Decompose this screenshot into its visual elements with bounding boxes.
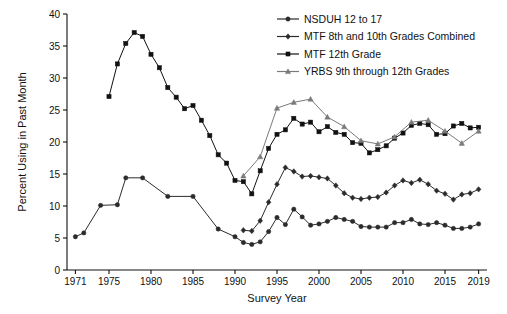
legend-item-0: NSDUH 12 to 17 bbox=[277, 13, 382, 25]
data-point-marker bbox=[384, 144, 388, 148]
data-point-marker bbox=[468, 190, 473, 195]
data-point-marker bbox=[141, 34, 145, 38]
data-point-marker bbox=[216, 227, 220, 231]
data-point-marker bbox=[292, 116, 296, 120]
data-point-marker bbox=[317, 174, 322, 179]
legend-label: MTF 12th Grade bbox=[304, 48, 381, 60]
series-triangle bbox=[241, 96, 482, 178]
x-tick-label: 1980 bbox=[140, 276, 163, 287]
data-point-marker bbox=[451, 197, 456, 202]
data-point-marker bbox=[283, 128, 287, 132]
data-point-marker bbox=[451, 226, 455, 230]
data-point-marker bbox=[140, 176, 144, 180]
data-point-marker bbox=[283, 165, 288, 170]
data-point-marker bbox=[308, 96, 313, 101]
data-point-marker bbox=[451, 124, 455, 128]
y-tick-label: 30 bbox=[49, 73, 61, 84]
data-point-marker bbox=[258, 240, 262, 244]
data-series bbox=[73, 30, 481, 246]
data-point-marker bbox=[392, 220, 396, 224]
data-point-marker bbox=[149, 52, 153, 56]
y-axis-title: Percent Using in Past Month bbox=[16, 72, 28, 211]
data-point-marker bbox=[417, 177, 422, 182]
data-point-marker bbox=[434, 188, 439, 193]
data-point-marker bbox=[317, 222, 321, 226]
data-point-marker bbox=[250, 242, 254, 246]
x-tick-label: 1995 bbox=[266, 276, 289, 287]
data-point-marker bbox=[124, 176, 128, 180]
data-point-marker bbox=[342, 217, 346, 221]
y-tick-label: 15 bbox=[49, 169, 61, 180]
y-tick-label: 10 bbox=[49, 201, 61, 212]
data-point-marker bbox=[266, 199, 271, 204]
data-point-marker bbox=[275, 182, 280, 187]
data-point-marker bbox=[308, 223, 312, 227]
data-point-marker bbox=[166, 194, 170, 198]
data-point-marker bbox=[359, 224, 363, 228]
data-point-marker bbox=[199, 118, 203, 122]
data-point-marker bbox=[191, 194, 195, 198]
data-point-marker bbox=[183, 107, 187, 111]
data-point-marker bbox=[342, 132, 346, 136]
data-point-marker bbox=[459, 192, 464, 197]
data-point-marker bbox=[334, 130, 338, 134]
data-point-marker bbox=[401, 131, 405, 135]
legend-item-2: MTF 12th Grade bbox=[277, 48, 381, 60]
legend-label: MTF 8th and 10th Grades Combined bbox=[304, 30, 475, 42]
y-tick-label: 0 bbox=[54, 265, 60, 276]
y-tick-label: 35 bbox=[49, 41, 61, 52]
x-axis-title: Survey Year bbox=[247, 292, 307, 304]
series-line bbox=[75, 178, 478, 245]
data-point-marker bbox=[476, 187, 481, 192]
data-point-marker bbox=[300, 174, 305, 179]
data-point-marker bbox=[426, 118, 431, 123]
data-point-marker bbox=[325, 125, 329, 129]
data-point-marker bbox=[367, 195, 372, 200]
data-point-marker bbox=[300, 215, 304, 219]
data-point-marker bbox=[434, 220, 438, 224]
data-point-marker bbox=[468, 126, 472, 130]
chart-legend: NSDUH 12 to 17MTF 8th and 10th Grades Co… bbox=[277, 13, 475, 78]
line-chart: 0510152025303540197119751980198519901995… bbox=[0, 0, 507, 314]
data-point-marker bbox=[359, 196, 364, 201]
data-point-marker bbox=[375, 194, 380, 199]
x-tick-label: 2015 bbox=[434, 276, 457, 287]
data-point-marker bbox=[286, 17, 290, 21]
data-point-marker bbox=[275, 132, 279, 136]
data-point-marker bbox=[233, 235, 237, 239]
data-point-marker bbox=[258, 154, 263, 159]
data-point-marker bbox=[208, 134, 212, 138]
data-point-marker bbox=[241, 180, 245, 184]
data-point-marker bbox=[351, 141, 355, 145]
data-point-marker bbox=[291, 169, 296, 174]
data-point-marker bbox=[250, 192, 254, 196]
data-point-marker bbox=[82, 231, 86, 235]
data-point-marker bbox=[258, 169, 262, 173]
data-point-marker bbox=[426, 182, 431, 187]
data-point-marker bbox=[267, 146, 271, 150]
data-point-marker bbox=[309, 120, 313, 124]
data-point-marker bbox=[300, 122, 304, 126]
legend-item-1: MTF 8th and 10th Grades Combined bbox=[277, 30, 475, 42]
data-point-marker bbox=[376, 225, 380, 229]
data-point-marker bbox=[241, 228, 246, 233]
x-tick-label: 1971 bbox=[64, 276, 87, 287]
data-point-marker bbox=[418, 121, 422, 125]
data-point-marker bbox=[124, 41, 128, 45]
data-point-marker bbox=[292, 207, 296, 211]
data-point-marker bbox=[401, 178, 406, 183]
data-point-marker bbox=[350, 219, 354, 223]
data-point-marker bbox=[266, 229, 270, 233]
y-tick-label: 5 bbox=[54, 233, 60, 244]
data-point-marker bbox=[98, 203, 102, 207]
data-point-marker bbox=[233, 178, 237, 182]
data-point-marker bbox=[367, 151, 371, 155]
data-point-marker bbox=[426, 222, 430, 226]
data-point-marker bbox=[468, 225, 472, 229]
legend-label: NSDUH 12 to 17 bbox=[304, 13, 382, 25]
legend-label: YRBS 9th through 12th Grades bbox=[304, 65, 449, 77]
data-point-marker bbox=[384, 225, 388, 229]
x-tick-label: 2019 bbox=[467, 276, 490, 287]
data-point-marker bbox=[317, 130, 321, 134]
x-tick-label: 1985 bbox=[182, 276, 205, 287]
